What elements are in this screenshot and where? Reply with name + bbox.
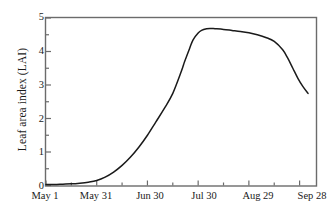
chart-figure: Leaf area index (LAI) 5 4 3 2 1 0 May 1 … [0,0,328,212]
x-minor-ticks [71,183,274,186]
y-minor-ticks [46,35,49,169]
lai-curve [46,28,308,184]
plot-area [0,0,328,212]
